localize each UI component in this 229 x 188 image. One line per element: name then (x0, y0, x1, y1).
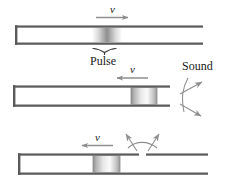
panel-3-tube (18, 153, 208, 175)
panel-1-velocity-label: v (110, 4, 115, 15)
panel-3-velocity-label: v (95, 132, 100, 143)
panel-1-top-wall (15, 25, 203, 28)
panel-3-bottom-wall (18, 172, 208, 175)
panel-2-velocity-label: v (130, 64, 135, 75)
panel-2-top-wall (13, 85, 170, 88)
panel-3-top-wall-right (146, 153, 208, 156)
panel-1-tube (15, 25, 203, 45)
panel-3-top-wall-left (18, 153, 139, 156)
sound-label: Sound (182, 60, 213, 72)
sound-pulse-diagram: v Pulse v Sound v (0, 0, 229, 188)
panel-3-closed-end (18, 153, 20, 175)
panel-2-block-fill (131, 88, 157, 105)
panel-2-sound-waves (180, 78, 202, 116)
panel-2-bottom-wall (13, 104, 170, 107)
panel-1-closed-end (15, 25, 17, 45)
diagram-canvas (0, 0, 229, 188)
panel-3-block-fill (93, 156, 120, 173)
pulse-label: Pulse (90, 55, 116, 67)
panel-3-sound-waves (0, 0, 159, 151)
panel-1-pulse-fill (92, 28, 122, 43)
panel-1-bottom-wall (15, 42, 203, 45)
panel-2-tube (13, 85, 170, 107)
panel-2-closed-end (13, 85, 15, 107)
